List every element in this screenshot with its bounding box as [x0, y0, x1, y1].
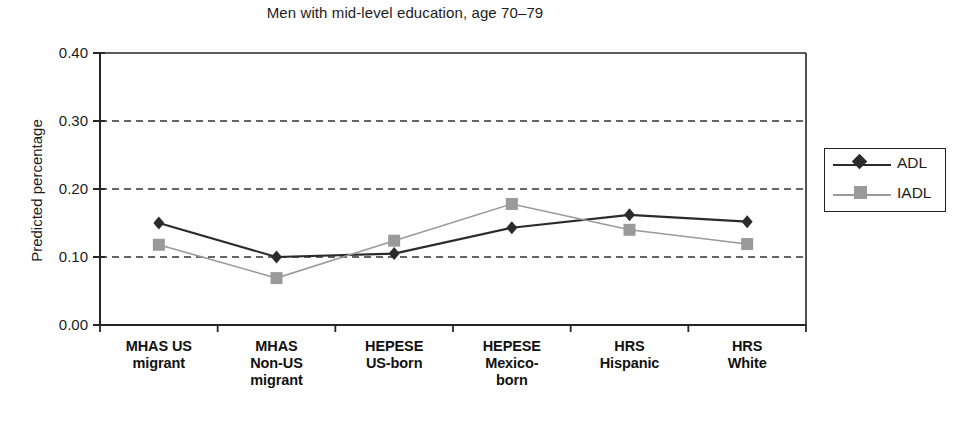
legend-item-iadl[interactable]: IADL [825, 182, 947, 208]
y-tick-label: 0.40 [42, 45, 88, 60]
x-tick-label: MHAS USmigrant [100, 338, 218, 372]
y-tick-label: 0.30 [42, 113, 88, 128]
legend-marker-square-icon [854, 186, 867, 199]
x-tick-label-line: migrant [100, 355, 218, 372]
legend-label-iadl: IADL [897, 185, 931, 201]
x-tick-label-line: MHAS US [100, 338, 218, 355]
chart-title: Men with mid-level education, age 70–79 [0, 4, 810, 21]
chart-figure: Men with mid-level education, age 70–79 … [0, 0, 955, 421]
x-tick-label-line: HRS [688, 338, 806, 355]
x-tick-label: HEPESEUS-born [335, 338, 453, 372]
x-tick-label-line: White [688, 355, 806, 372]
legend-marker-diamond-icon [854, 156, 865, 167]
x-tick-label-line: migrant [218, 372, 336, 389]
x-tick-label-line: HEPESE [453, 338, 571, 355]
y-tick-label: 0.20 [42, 181, 88, 196]
y-tick-label: 0.00 [42, 317, 88, 332]
x-tick-label-line: Hispanic [571, 355, 689, 372]
chart-legend: ADL IADL [824, 148, 946, 212]
x-tick-label-line: US-born [335, 355, 453, 372]
x-tick-label-line: born [453, 372, 571, 389]
x-tick-label-line: Non-US [218, 355, 336, 372]
x-tick-label-line: Mexico- [453, 355, 571, 372]
series-line-adl [159, 215, 747, 257]
data-point-iadl[interactable] [624, 224, 636, 236]
data-point-adl[interactable] [389, 247, 400, 260]
data-point-iadl[interactable] [388, 235, 400, 247]
data-point-adl[interactable] [624, 208, 635, 221]
x-tick-label: HEPESEMexico-born [453, 338, 571, 389]
tick-marks-group [93, 53, 806, 332]
x-tick-label-line: MHAS [218, 338, 336, 355]
data-point-iadl[interactable] [506, 198, 518, 210]
y-tick-label: 0.10 [42, 249, 88, 264]
legend-item-adl[interactable]: ADL [825, 152, 947, 178]
data-point-adl[interactable] [153, 217, 164, 230]
series-lines-group [159, 204, 747, 278]
data-point-adl[interactable] [271, 251, 282, 264]
data-point-iadl[interactable] [153, 239, 165, 251]
data-point-iadl[interactable] [741, 238, 753, 250]
x-tick-label: MHASNon-USmigrant [218, 338, 336, 389]
x-tick-label-line: HRS [571, 338, 689, 355]
x-tick-label: HRSWhite [688, 338, 806, 372]
data-point-adl[interactable] [506, 221, 517, 234]
x-tick-label: HRSHispanic [571, 338, 689, 372]
data-point-iadl[interactable] [271, 272, 283, 284]
x-tick-label-line: HEPESE [335, 338, 453, 355]
data-point-adl[interactable] [742, 215, 753, 228]
legend-label-adl: ADL [897, 155, 927, 171]
